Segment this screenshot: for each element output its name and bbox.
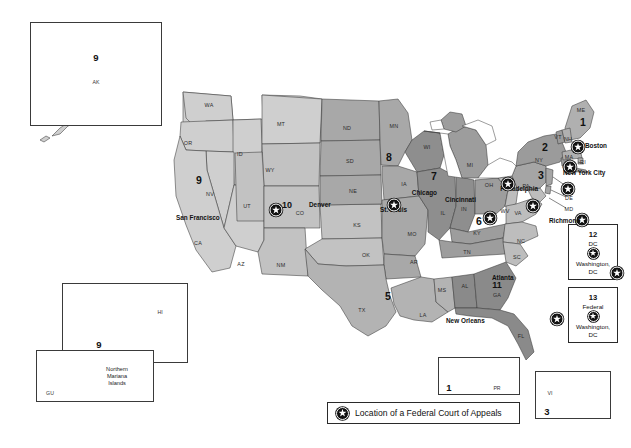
- star-marker-icon: [527, 200, 540, 213]
- city-label-chicago: Chicago: [412, 189, 437, 196]
- city-label-cincinnati: Cincinnati: [445, 196, 476, 203]
- star-marker-icon: [388, 199, 401, 212]
- star-marker-icon: [572, 141, 585, 154]
- star-marker-icon: [270, 204, 283, 217]
- city-label-new-york-city: New York City: [563, 169, 605, 176]
- star-marker-icon: [551, 313, 564, 326]
- city-label-new-orleans: New Orleans: [446, 317, 485, 324]
- city-label-boston: Boston: [585, 142, 607, 149]
- city-label-denver: Denver: [309, 201, 331, 208]
- star-marker-icon: [484, 212, 497, 225]
- star-marker-icon: [562, 183, 575, 196]
- city-label-richmond: Richmond: [549, 217, 580, 224]
- star-marker-icon: [502, 178, 515, 191]
- city-label-san-francisco: San Francisco: [176, 214, 220, 221]
- city-label-atlanta: Atlanta: [492, 274, 514, 281]
- city-marker-layer: BostonNew York CityPhiladelphiaRichmondC…: [0, 0, 631, 448]
- star-marker-icon: [611, 267, 624, 280]
- federal-circuit-map: .s{stroke:#3a3a3a;stroke-width:.55;strok…: [0, 0, 631, 448]
